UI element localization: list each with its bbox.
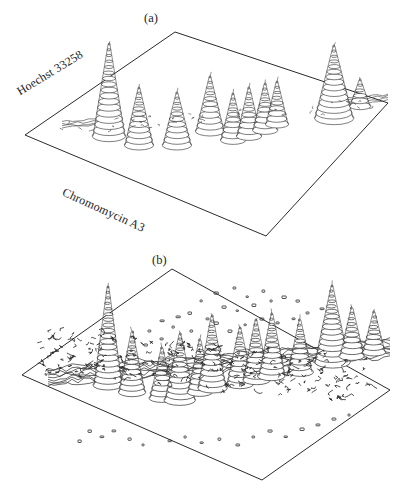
peak-a10 (349, 77, 371, 110)
noise-speck (292, 318, 295, 320)
surface-mesh (60, 41, 388, 150)
noise-speck (252, 436, 255, 438)
noise-speck (236, 310, 239, 311)
noise-speck (306, 312, 309, 314)
noise-speck (200, 442, 203, 443)
noise-speck (190, 330, 193, 332)
peak-a3 (162, 88, 192, 150)
noise-speck (206, 318, 209, 320)
noise-speck (228, 330, 232, 332)
noise-speck (176, 316, 180, 318)
noise-speck (296, 300, 299, 302)
noise-speck (218, 438, 221, 440)
noise-speck (184, 436, 186, 438)
noise-speck (348, 414, 350, 416)
noise-speck (222, 306, 226, 308)
noise-speck (144, 344, 148, 346)
noise-speck (160, 338, 163, 340)
noise-speck (148, 330, 151, 332)
noise-speck (320, 308, 324, 310)
noise-speck (112, 430, 116, 432)
peak-a9 (314, 42, 354, 124)
panel-a-plot (0, 0, 409, 250)
surface-mesh (38, 280, 390, 446)
noise-speck (214, 322, 218, 324)
noise-speck (160, 320, 164, 322)
noise-speck (168, 440, 171, 442)
noise-speck (270, 300, 272, 302)
noise-speck (233, 287, 236, 289)
peak-b6 (198, 313, 228, 393)
peak-a1 (92, 41, 126, 142)
noise-speck (78, 440, 81, 443)
noise-speck (268, 430, 272, 432)
noise-speck (236, 444, 240, 446)
noise-speck (118, 356, 121, 358)
noise-speck (200, 300, 202, 302)
noise-speck (188, 312, 192, 314)
noise-speck (128, 438, 131, 440)
panel-b: (b) (0, 248, 409, 497)
noise-speck (332, 418, 336, 420)
noise-speck (172, 326, 174, 328)
noise-speck (262, 290, 265, 292)
peak-a8 (265, 77, 289, 128)
noise-speck (252, 304, 256, 307)
noise-speck (316, 424, 320, 426)
panel-b-plot (0, 248, 409, 497)
noise-speck (276, 322, 279, 324)
figure-container: (a) Hoechst 33258 Chromomycin A3 (b) (0, 0, 409, 497)
noise-speck (88, 430, 91, 432)
noise-speck (300, 428, 304, 431)
noise-speck (100, 436, 104, 438)
peak-a4 (195, 72, 225, 136)
panel-a: (a) Hoechst 33258 Chromomycin A3 (0, 0, 409, 250)
noise-speck (244, 324, 246, 326)
noise-speck (142, 444, 144, 446)
peak-b1 (93, 283, 123, 390)
noise-speck (284, 436, 287, 438)
peak-a2 (124, 84, 154, 150)
noise-speck (246, 296, 248, 298)
peak-b13 (362, 309, 386, 356)
noise-speck (282, 296, 286, 299)
